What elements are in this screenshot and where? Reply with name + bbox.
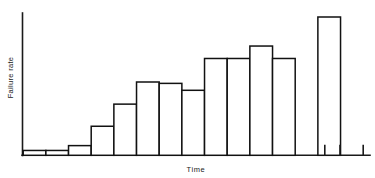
bars-group (23, 17, 340, 155)
bar-1 (23, 150, 46, 155)
bar-6 (137, 82, 160, 155)
bar-5 (114, 104, 137, 155)
bar-9 (205, 58, 228, 155)
bar-8 (182, 90, 205, 155)
bar-10 (227, 58, 250, 155)
bar-14 (318, 17, 341, 155)
bar-2 (46, 150, 69, 155)
chart-canvas (0, 0, 375, 178)
bar-12 (273, 58, 296, 155)
bar-11 (250, 46, 273, 155)
failure-rate-bar-chart: Failure rate Time (0, 0, 375, 178)
bar-7 (159, 83, 182, 155)
bar-3 (69, 146, 92, 156)
x-axis-label-text: Time (187, 165, 206, 174)
x-axis-label: Time (22, 158, 370, 176)
bar-4 (91, 126, 114, 155)
